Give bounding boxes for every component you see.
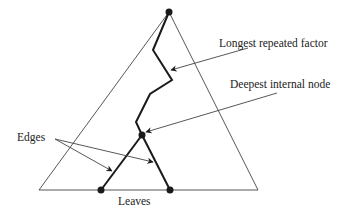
deepest-internal-node — [139, 132, 146, 139]
edge-left — [101, 135, 142, 190]
arrow-edge-left — [55, 139, 112, 171]
arrow-deepest-node — [146, 93, 277, 132]
suffix-tree-diagram — [0, 0, 351, 217]
arrow-edge-right — [55, 139, 153, 162]
label-longest-repeated-factor: Longest repeated factor — [219, 38, 328, 50]
longest-repeated-factor-path — [136, 12, 172, 135]
label-deepest-internal-node: Deepest internal node — [230, 79, 330, 91]
leaf-node-left — [98, 187, 105, 194]
label-edges: Edges — [17, 132, 45, 144]
root-node — [166, 9, 173, 16]
label-leaves: Leaves — [118, 196, 151, 208]
edge-right — [142, 135, 170, 190]
arrow-longest-factor — [171, 48, 248, 70]
leaf-node-right — [167, 187, 174, 194]
